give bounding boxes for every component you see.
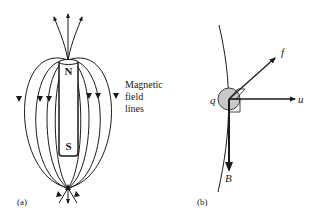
force-label: f <box>281 46 286 58</box>
south-pole-label: S <box>65 140 71 152</box>
north-pole-label: N <box>65 65 73 77</box>
caption-line-1: Magnetic <box>125 79 163 90</box>
velocity-label: u <box>298 93 304 105</box>
arrow-up-icon <box>54 17 68 60</box>
force-vector <box>229 58 275 99</box>
field-label: B <box>225 172 232 184</box>
charge-label: q <box>210 94 216 106</box>
caption-line-3: lines <box>125 103 144 114</box>
caption-line-2: field <box>125 91 143 102</box>
panel-b-label: (b) <box>197 197 208 207</box>
figure: N S Magnetic field lines (a) q f u B (b) <box>0 0 322 211</box>
lorentz-force-diagram: q f u B (b) <box>197 25 304 207</box>
arrow-up-icon <box>68 17 82 60</box>
bar-magnet: N S <box>59 60 78 157</box>
panel-a-label: (a) <box>17 197 27 207</box>
